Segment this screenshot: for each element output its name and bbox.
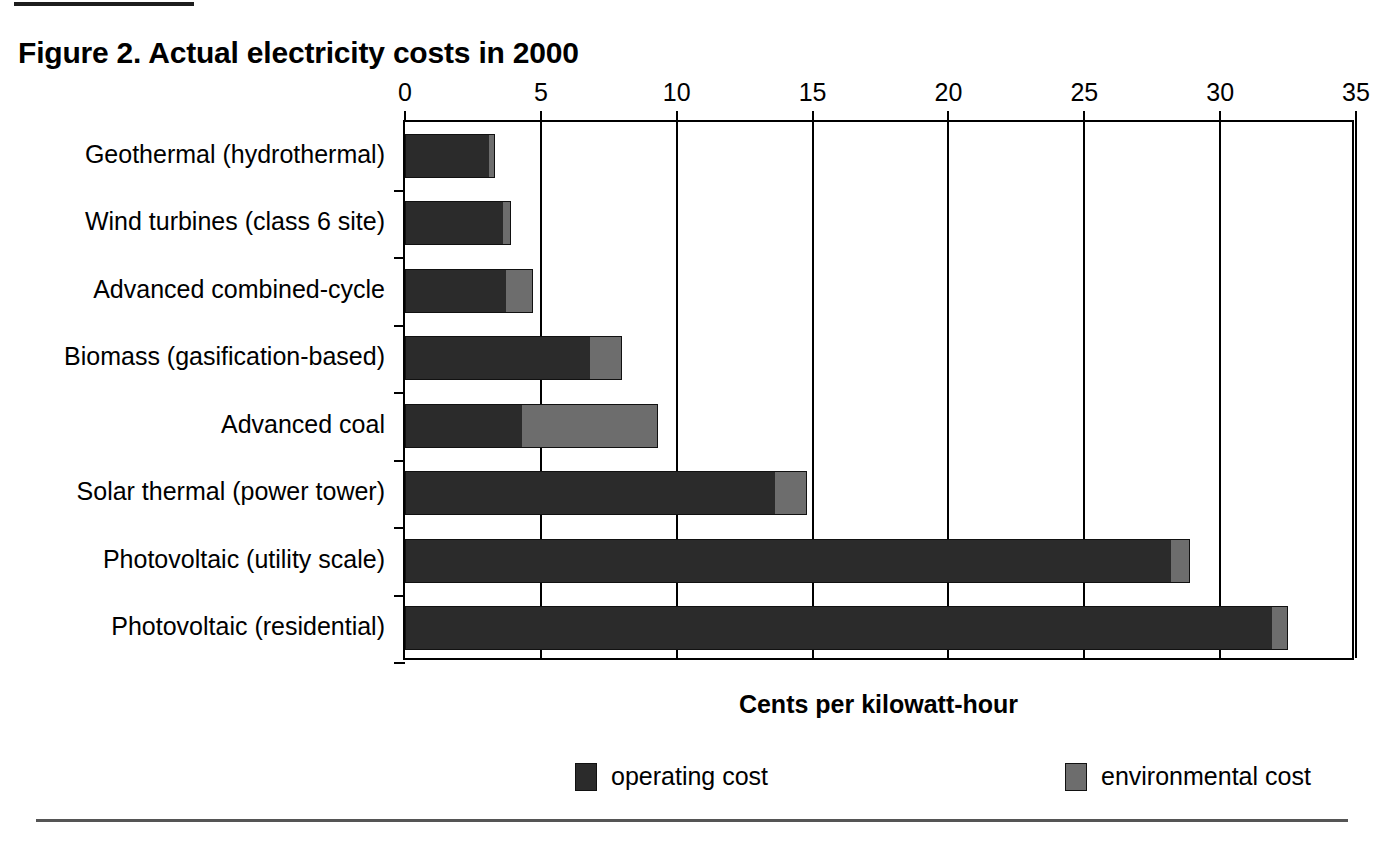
y-tick-mark-0 <box>394 190 405 192</box>
legend-label-environmental-cost: environmental cost <box>1101 762 1311 791</box>
x-tick-label-10: 10 <box>663 78 691 107</box>
category-label-5: Solar thermal (power tower) <box>77 477 385 506</box>
bar-geothermal-hydrothermal <box>405 134 495 178</box>
x-tick-label-0: 0 <box>398 78 412 107</box>
bar-segment-environmental-cost <box>590 336 623 380</box>
x-tick-mark-10 <box>676 111 678 122</box>
chart-plot-area: 05101520253035 <box>403 120 1354 660</box>
legend-swatch-environmental-cost <box>1065 763 1087 791</box>
category-label-7: Photovoltaic (residential) <box>111 612 385 641</box>
y-tick-mark-7 <box>394 662 405 664</box>
category-label-2: Advanced combined-cycle <box>93 274 385 303</box>
x-axis-title: Cents per kilowatt-hour <box>403 690 1354 719</box>
x-tick-mark-0 <box>404 111 406 122</box>
category-label-4: Advanced coal <box>221 409 385 438</box>
x-tick-mark-35 <box>1355 111 1357 122</box>
bar-segment-operating-cost <box>405 606 1272 650</box>
category-axis-labels: Geothermal (hydrothermal)Wind turbines (… <box>0 0 403 842</box>
legend-swatch-operating-cost <box>575 763 597 791</box>
bar-segment-environmental-cost <box>1272 606 1288 650</box>
category-label-0: Geothermal (hydrothermal) <box>85 139 385 168</box>
x-tick-label-15: 15 <box>799 78 827 107</box>
bar-segment-operating-cost <box>405 201 503 245</box>
bar-advanced-combined-cycle <box>405 269 533 313</box>
bar-segment-environmental-cost <box>489 134 494 178</box>
legend-label-operating-cost: operating cost <box>611 762 768 791</box>
x-tick-mark-25 <box>1083 111 1085 122</box>
x-tick-label-20: 20 <box>935 78 963 107</box>
x-tick-mark-5 <box>540 111 542 122</box>
chart-legend: operating cost environmental cost <box>403 762 1354 802</box>
y-tick-mark-3 <box>394 392 405 394</box>
bar-segment-environmental-cost <box>506 269 533 313</box>
bar-segment-operating-cost <box>405 336 590 380</box>
x-tick-label-35: 35 <box>1342 78 1370 107</box>
x-tick-label-30: 30 <box>1206 78 1234 107</box>
bar-segment-environmental-cost <box>775 471 808 515</box>
y-tick-mark-1 <box>394 257 405 259</box>
bar-segment-environmental-cost <box>522 404 658 448</box>
bar-photovoltaic-residential <box>405 606 1288 650</box>
bar-wind-turbines-class-6-site <box>405 201 511 245</box>
gridline-30 <box>1219 122 1221 658</box>
bar-segment-operating-cost <box>405 134 489 178</box>
y-tick-mark-2 <box>394 325 405 327</box>
bar-segment-operating-cost <box>405 471 775 515</box>
bar-segment-operating-cost <box>405 539 1171 583</box>
legend-item-environmental-cost: environmental cost <box>1065 762 1311 791</box>
x-tick-label-25: 25 <box>1070 78 1098 107</box>
bar-segment-operating-cost <box>405 404 522 448</box>
bottom-divider-rule <box>36 819 1348 822</box>
x-tick-mark-20 <box>947 111 949 122</box>
bar-photovoltaic-utility-scale <box>405 539 1190 583</box>
category-label-3: Biomass (gasification-based) <box>64 342 385 371</box>
x-tick-label-5: 5 <box>534 78 548 107</box>
bar-segment-environmental-cost <box>503 201 511 245</box>
category-label-1: Wind turbines (class 6 site) <box>85 207 385 236</box>
x-tick-mark-30 <box>1219 111 1221 122</box>
y-tick-mark-5 <box>394 527 405 529</box>
legend-item-operating-cost: operating cost <box>575 762 768 791</box>
gridline-35 <box>1355 122 1357 658</box>
category-label-6: Photovoltaic (utility scale) <box>103 544 385 573</box>
bar-segment-environmental-cost <box>1171 539 1190 583</box>
bar-biomass-gasification-based <box>405 336 622 380</box>
y-tick-mark-4 <box>394 460 405 462</box>
bar-segment-operating-cost <box>405 269 506 313</box>
bar-solar-thermal-power-tower <box>405 471 807 515</box>
bar-advanced-coal <box>405 404 658 448</box>
y-tick-mark-6 <box>394 595 405 597</box>
x-tick-mark-15 <box>812 111 814 122</box>
